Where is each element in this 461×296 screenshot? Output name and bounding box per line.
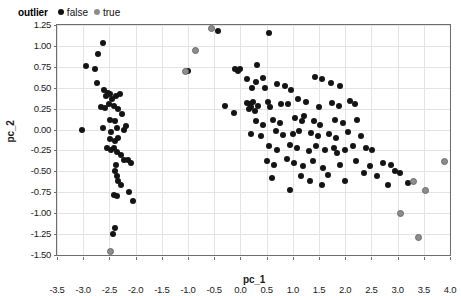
y-axis-tick [54,46,57,47]
y-axis-tick [54,213,57,214]
y-axis-tick-label: 0.50 [17,82,51,93]
data-point-false [354,117,360,123]
data-point-false [110,231,116,237]
data-point-false [317,122,323,128]
x-axis-tick [450,257,451,260]
data-point-false [215,28,221,34]
data-point-false [333,135,339,141]
x-axis-tick-label: 4.0 [435,284,461,295]
gridline-horizontal [57,234,450,235]
data-point-false [296,128,302,134]
legend-item-false[interactable]: false [58,7,88,18]
y-axis-tick [54,67,57,68]
data-point-false [287,142,293,148]
data-point-false [100,125,106,131]
data-point-false [295,96,301,102]
data-point-false [334,150,340,156]
data-point-false [274,147,280,153]
gridline-horizontal [57,25,450,26]
y-axis-tick-label: 1.00 [17,40,51,51]
data-point-false [262,85,268,91]
data-point-false [231,110,237,116]
data-point-false [353,158,359,164]
gridline-vertical [162,25,163,255]
x-axis-tick [267,257,268,260]
x-axis-label: pc_1 [56,274,452,285]
data-point-false [260,122,266,128]
x-axis-tick [345,257,346,260]
gridline-vertical [83,25,84,255]
data-point-false [290,131,296,137]
data-point-true [415,234,422,241]
data-point-false [322,147,328,153]
data-point-false [307,178,313,184]
data-point-false [255,103,261,109]
data-point-false [358,133,364,139]
data-point-false [350,143,356,149]
data-point-false [369,147,375,153]
gridline-vertical [57,25,58,255]
data-point-false [260,75,266,81]
y-axis-tick [54,25,57,26]
x-axis-tick [398,257,399,260]
data-point-false [312,74,318,80]
y-axis-tick [54,255,57,256]
data-point-false [119,111,125,117]
data-point-false [329,100,335,106]
gridline-vertical [424,25,425,255]
y-axis-tick-label: -1.50 [17,249,51,260]
y-axis-tick-label: -0.50 [17,165,51,176]
gridline-vertical [214,25,215,255]
data-point-false [294,145,300,151]
y-axis-tick-label: -0.75 [17,186,51,197]
x-axis-tick [188,257,189,260]
data-point-false [300,163,306,169]
data-point-false [118,182,124,188]
data-point-false [388,162,394,168]
data-point-false [278,101,284,107]
data-point-false [310,158,316,164]
gridline-vertical [188,25,189,255]
data-point-false [253,79,259,85]
data-point-true [441,158,448,165]
gridline-vertical [398,25,399,255]
data-point-false [337,162,343,168]
y-axis-tick-label: -0.25 [17,144,51,155]
data-point-false [288,87,294,93]
y-axis-tick-label: 0.00 [17,124,51,135]
y-axis-tick-label: 1.25 [17,19,51,30]
data-point-false [126,189,132,195]
y-axis-tick [54,192,57,193]
legend-item-true[interactable]: true [94,7,120,18]
gridline-vertical [267,25,268,255]
data-point-false [95,51,101,57]
data-point-false [291,160,297,166]
x-axis-tick [293,257,294,260]
data-point-false [277,120,283,126]
data-point-false [253,118,259,124]
data-point-false [273,128,279,134]
data-point-false [108,129,114,135]
data-point-false [271,162,277,168]
data-point-true [422,187,429,194]
gridline-horizontal [57,46,450,47]
data-point-false [113,162,119,168]
y-axis-tick-label: -1.00 [17,207,51,218]
y-axis-tick [54,130,57,131]
data-point-false [249,85,255,91]
data-point-false [266,30,272,36]
data-point-false [252,108,258,114]
scatter-plot-figure: outlier false true pc_2 -3.5-3.0-2.5-2.0… [0,0,461,296]
y-axis-tick [54,150,57,151]
x-axis-tick [162,257,163,260]
x-axis-tick [109,257,110,260]
data-point-false [287,187,293,193]
data-point-false [332,117,338,123]
x-axis-tick [136,257,137,260]
data-point-false [361,170,367,176]
gridline-horizontal [57,213,450,214]
plot-area: -3.5-3.0-2.5-2.0-1.5-1.0-0.50.00.51.01.5… [56,24,451,256]
data-point-false [264,158,270,164]
gridline-vertical [371,25,372,255]
data-point-false [92,66,98,72]
